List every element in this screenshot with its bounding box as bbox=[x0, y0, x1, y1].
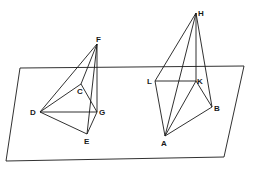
label-E: E bbox=[84, 137, 90, 146]
edge-LA bbox=[155, 81, 165, 136]
edge-HL bbox=[155, 13, 196, 81]
pyramid-left bbox=[40, 44, 97, 134]
label-B: B bbox=[214, 104, 220, 113]
label-L: L bbox=[147, 77, 152, 86]
label-A: A bbox=[161, 139, 167, 148]
geometry-diagram: F C D G E H L K B A bbox=[0, 0, 253, 170]
label-D: D bbox=[30, 108, 36, 117]
edge-DE bbox=[40, 112, 87, 134]
plane bbox=[6, 66, 244, 161]
label-F: F bbox=[96, 35, 101, 44]
label-G: G bbox=[99, 108, 105, 117]
edge-CG bbox=[81, 84, 97, 112]
edge-HB bbox=[196, 13, 212, 107]
edge-FD bbox=[40, 44, 97, 112]
edge-HA bbox=[165, 13, 196, 136]
edge-AB bbox=[165, 107, 212, 136]
label-K: K bbox=[197, 77, 203, 86]
label-H: H bbox=[198, 9, 204, 18]
label-C: C bbox=[77, 87, 83, 96]
pyramid-right bbox=[155, 13, 212, 136]
edge-KA bbox=[165, 81, 196, 136]
